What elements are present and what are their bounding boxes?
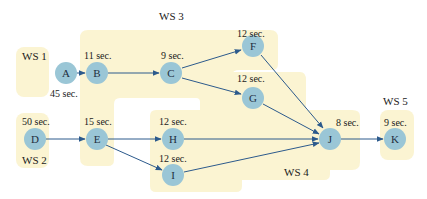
node-J[interactable]: J — [319, 128, 341, 150]
node-H-label: H — [169, 133, 177, 145]
node-K[interactable]: K — [384, 128, 406, 150]
time-G: 12 sec. — [237, 73, 265, 84]
ws1-label: WS 1 — [22, 50, 47, 62]
time-I: 12 sec. — [159, 153, 187, 164]
node-K-label: K — [391, 133, 399, 145]
node-D-label: D — [31, 133, 39, 145]
node-B-label: B — [93, 67, 100, 79]
ws5-label: WS 5 — [383, 95, 408, 107]
time-H: 12 sec. — [159, 116, 187, 127]
precedence-diagram: A B C D E F G H I J K 45 sec. 11 sec. 9 … — [0, 0, 427, 199]
time-F: 12 sec. — [237, 28, 265, 39]
node-C-label: C — [167, 67, 174, 79]
node-C[interactable]: C — [160, 62, 182, 84]
node-A-label: A — [62, 67, 70, 79]
node-B[interactable]: B — [86, 62, 108, 84]
ws3-label: WS 3 — [159, 10, 184, 22]
node-G-label: G — [249, 92, 257, 104]
time-D: 50 sec. — [22, 116, 50, 127]
ws4-label: WS 4 — [284, 166, 309, 178]
ws2-label: WS 2 — [22, 154, 47, 166]
node-G[interactable]: G — [242, 87, 264, 109]
node-F-label: F — [250, 40, 256, 52]
node-E[interactable]: E — [86, 128, 108, 150]
node-I[interactable]: I — [162, 164, 184, 186]
node-J-label: J — [328, 133, 333, 145]
time-J: 8 sec. — [336, 117, 359, 128]
time-B: 11 sec. — [84, 50, 111, 61]
workstation-regions — [16, 30, 414, 192]
node-E-label: E — [94, 133, 101, 145]
time-K: 9 sec. — [384, 117, 407, 128]
time-A: 45 sec. — [50, 88, 78, 99]
node-A[interactable]: A — [55, 62, 77, 84]
node-D[interactable]: D — [24, 128, 46, 150]
time-E: 15 sec. — [84, 116, 112, 127]
node-I-label: I — [171, 169, 175, 181]
time-C: 9 sec. — [161, 50, 184, 61]
node-H[interactable]: H — [162, 128, 184, 150]
